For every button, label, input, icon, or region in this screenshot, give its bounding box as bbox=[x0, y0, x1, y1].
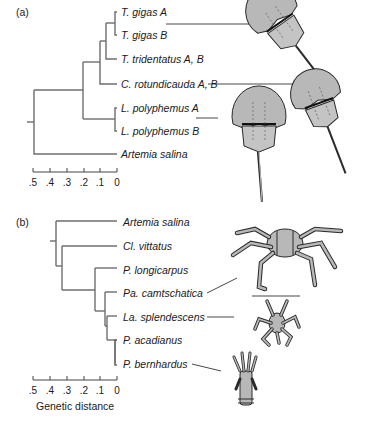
taxon-label: Cl. vittatus bbox=[123, 240, 172, 252]
taxon-label: T. gigas A bbox=[121, 6, 167, 18]
panel-a-label: (a) bbox=[16, 6, 29, 18]
taxon-label: L. polyphemus B bbox=[121, 125, 199, 137]
scale-tick: .5 bbox=[26, 385, 40, 397]
scale-tick: .3 bbox=[60, 177, 74, 189]
axis-title: Genetic distance bbox=[36, 400, 114, 412]
scale-tick: .4 bbox=[43, 385, 57, 397]
horseshoe-crab-rotundicauda-illustration bbox=[284, 62, 367, 182]
taxon-label: L. polyphemus A bbox=[121, 102, 199, 114]
hermit-crab-illustration bbox=[234, 353, 256, 405]
taxon-label: P. acadianus bbox=[123, 334, 182, 346]
panel-b-label: (b) bbox=[16, 216, 29, 228]
scale-bar-a bbox=[33, 168, 117, 172]
tree-b bbox=[50, 221, 117, 365]
taxon-label: Pa. camtschatica bbox=[123, 287, 203, 299]
horseshoe-crab-polyphemus-illustration bbox=[232, 86, 286, 202]
scale-tick: .2 bbox=[77, 385, 91, 397]
taxon-label: La. splendescens bbox=[123, 311, 205, 323]
taxon-label: P. longicarpus bbox=[123, 264, 188, 276]
tree-a bbox=[27, 12, 117, 154]
taxon-label: T. tridentatus A, B bbox=[121, 53, 204, 65]
king-crab-illustration bbox=[233, 229, 341, 289]
scale-tick: 0 bbox=[110, 385, 124, 397]
scale-tick: .1 bbox=[93, 177, 107, 189]
taxon-label: C. rotundicauda A, B bbox=[121, 78, 218, 90]
taxon-label: P. bernhardus bbox=[123, 358, 188, 370]
lithodid-crab-illustration bbox=[255, 301, 299, 345]
scale-bar-b bbox=[33, 376, 117, 380]
taxon-label: T. gigas B bbox=[121, 29, 167, 41]
taxon-label: Artemia salina bbox=[121, 148, 188, 160]
scale-tick: .1 bbox=[93, 385, 107, 397]
scale-tick: .5 bbox=[26, 177, 40, 189]
scale-tick: .2 bbox=[77, 177, 91, 189]
scale-tick: .4 bbox=[43, 177, 57, 189]
taxon-label: Artemia salina bbox=[123, 216, 190, 228]
scale-tick: 0 bbox=[110, 177, 124, 189]
scale-tick: .3 bbox=[60, 385, 74, 397]
